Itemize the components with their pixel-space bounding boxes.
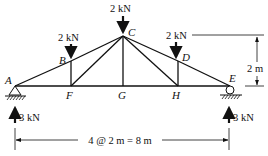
node-label-B: B (59, 54, 66, 66)
node-label-F: F (65, 89, 73, 101)
node-label-H: H (171, 89, 181, 101)
node-label-G: G (118, 89, 126, 101)
load-label-D: 2 kN (166, 30, 187, 41)
node-label-E: E (228, 72, 236, 84)
span-dimension: 4 @ 2 m = 8 m (15, 128, 229, 150)
node-label-D: D (181, 51, 190, 63)
member-CH (123, 36, 178, 86)
height-dimension-label: 2 m (247, 63, 263, 74)
height-dimension: 2 m (192, 35, 264, 86)
member-BC (71, 36, 123, 61)
pin-support-A (5, 86, 26, 100)
reactions: 3 kN 3 kN (15, 108, 254, 123)
truss-diagram: A B C D E F G H 2 kN 2 kN 2 kN (0, 0, 268, 156)
reaction-label-E: 3 kN (233, 112, 254, 123)
member-FC (71, 36, 123, 86)
member-DE (178, 61, 230, 86)
roller-support-E (220, 86, 242, 99)
truss-members (15, 36, 230, 86)
reaction-label-A: 3 kN (19, 112, 40, 123)
node-label-C: C (128, 26, 136, 38)
load-label-B: 2 kN (58, 32, 79, 43)
load-label-C: 2 kN (110, 3, 131, 14)
node-label-A: A (4, 74, 12, 86)
span-dimension-label: 4 @ 2 m = 8 m (88, 135, 151, 146)
